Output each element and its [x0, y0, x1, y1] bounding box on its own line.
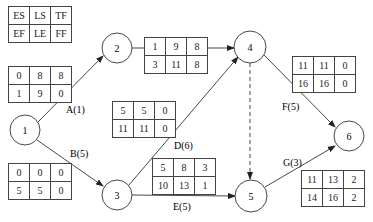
cell: 0	[51, 164, 72, 182]
table-activity-a: 088 190	[8, 66, 72, 103]
cell: 8	[187, 38, 208, 56]
cell: 10	[153, 177, 174, 195]
cell: 11	[302, 171, 323, 189]
cell: 0	[51, 85, 72, 103]
cell: 9	[30, 85, 51, 103]
cell: 5	[113, 102, 134, 120]
cell: 5	[30, 182, 51, 200]
cell: 1	[195, 177, 216, 195]
cell: 9	[166, 38, 187, 56]
table-activity-e: 583 10131	[152, 158, 216, 195]
legend-ef: EF	[9, 25, 30, 43]
cell: 0	[51, 182, 72, 200]
legend-ff: FF	[51, 25, 72, 43]
cell: 0	[335, 57, 356, 75]
cell: 8	[187, 56, 208, 74]
legend-es: ES	[9, 7, 30, 25]
label-f: F(5)	[282, 101, 299, 113]
cell: 11	[293, 57, 314, 75]
cell: 3	[145, 56, 166, 74]
table-activity-b: 000 550	[8, 163, 72, 200]
cell: 0	[9, 67, 30, 85]
cell: 13	[323, 171, 344, 189]
cell: 0	[155, 120, 176, 138]
cell: 5	[9, 182, 30, 200]
cell: 11	[113, 120, 134, 138]
label-g: G(3)	[283, 157, 302, 169]
legend-tf: TF	[51, 7, 72, 25]
cell: 1	[145, 38, 166, 56]
node-4: 4	[234, 31, 266, 63]
node-6: 6	[334, 121, 364, 151]
svg-text:1: 1	[23, 125, 28, 136]
legend-table: ESLSTF EFLEFF	[8, 6, 72, 43]
cell: 0	[155, 102, 176, 120]
cell: 5	[153, 159, 174, 177]
cell: 0	[30, 164, 51, 182]
cell: 2	[344, 171, 365, 189]
cell: 16	[314, 75, 335, 93]
cell: 0	[9, 164, 30, 182]
svg-text:3: 3	[115, 190, 120, 201]
node-2: 2	[102, 33, 132, 63]
cell: 16	[293, 75, 314, 93]
cell: 0	[335, 75, 356, 93]
cell: 16	[323, 189, 344, 207]
cell: 5	[134, 102, 155, 120]
table-activity-c: 198 3118	[144, 37, 208, 74]
label-d: D(6)	[174, 140, 193, 152]
table-activity-f: 11110 16160	[292, 56, 356, 93]
cell: 8	[30, 67, 51, 85]
node-1: 1	[10, 115, 40, 145]
svg-text:6: 6	[347, 131, 352, 142]
label-e: E(5)	[173, 201, 191, 213]
label-a: A(1)	[66, 104, 85, 116]
cell: 2	[344, 189, 365, 207]
cell: 11	[166, 56, 187, 74]
cell: 1	[9, 85, 30, 103]
svg-text:5: 5	[249, 191, 254, 202]
cell: 13	[174, 177, 195, 195]
table-activity-g: 11132 14162	[301, 170, 365, 207]
table-activity-d: 550 11110	[112, 101, 176, 138]
svg-text:2: 2	[115, 43, 120, 54]
legend-le: LE	[30, 25, 51, 43]
cell: 3	[195, 159, 216, 177]
legend-ls: LS	[30, 7, 51, 25]
edge-e	[132, 195, 235, 196]
cell: 14	[302, 189, 323, 207]
cell: 8	[174, 159, 195, 177]
node-3: 3	[102, 180, 132, 210]
svg-text:4: 4	[248, 42, 253, 53]
label-b: B(5)	[70, 148, 88, 160]
cell: 8	[51, 67, 72, 85]
cell: 11	[134, 120, 155, 138]
node-5: 5	[235, 180, 267, 212]
cell: 11	[314, 57, 335, 75]
